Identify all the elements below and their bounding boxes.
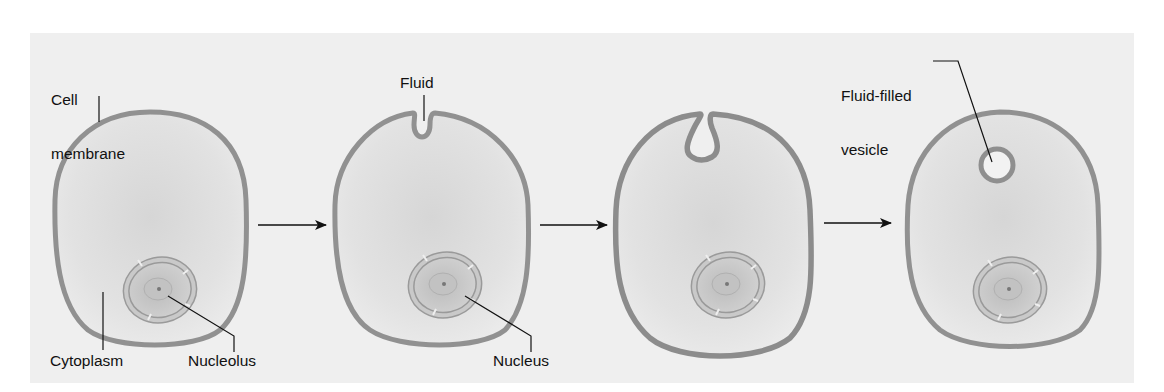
- label-cell-membrane: Cell membrane: [51, 55, 125, 181]
- cell-stage-2: [335, 113, 529, 345]
- label-cytoplasm: Cytoplasm: [50, 352, 123, 370]
- label-fluid: Fluid: [400, 74, 434, 92]
- fluid-filled-vesicle: [981, 149, 1013, 181]
- label-nucleus: Nucleus: [493, 352, 549, 370]
- pinocytosis-figure: [0, 0, 1164, 392]
- label-vesicle-line1: Fluid-filled: [841, 87, 912, 105]
- label-fluid-filled-vesicle: Fluid-filled vesicle: [841, 51, 912, 177]
- label-vesicle-line2: vesicle: [841, 141, 912, 159]
- label-cell-membrane-line2: membrane: [51, 145, 125, 163]
- label-nucleolus: Nucleolus: [188, 352, 256, 370]
- label-cell-membrane-line1: Cell: [51, 91, 125, 109]
- cell-stage-4: [907, 112, 1099, 347]
